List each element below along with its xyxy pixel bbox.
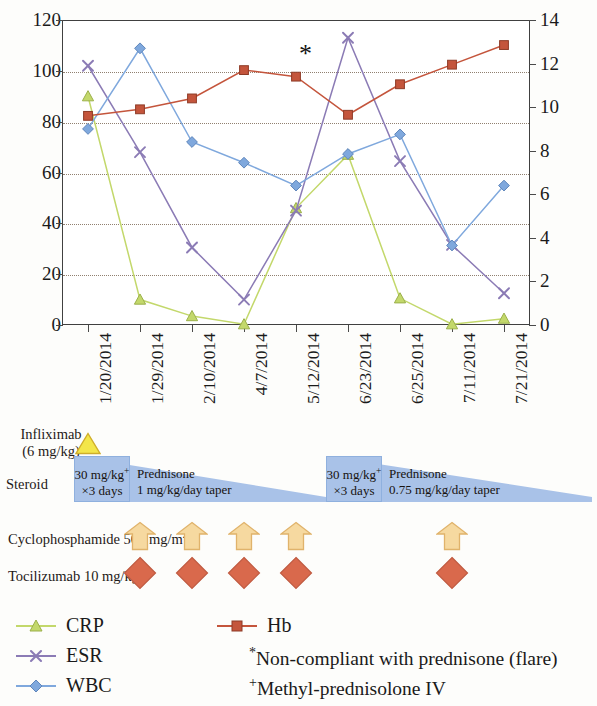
data-point-diamond (83, 124, 94, 135)
y-axis-right-tick-label: 4 (540, 228, 590, 247)
x-axis-tick-label: 6/23/2014 (355, 333, 376, 404)
data-point-square (240, 66, 249, 75)
cyclophosphamide-label-text: Cyclophosphamide 500 mg/m (8, 531, 183, 547)
arrow-up-icon (280, 521, 312, 551)
tocilizumab-dose-diamond-icon (123, 556, 157, 594)
data-point-square (448, 60, 457, 69)
data-point-x (239, 295, 249, 305)
cyclophosphamide-dose-arrow-up-icon (436, 521, 468, 555)
y-axis-right-tick-mark (529, 325, 536, 326)
arrow-up-icon (228, 521, 260, 551)
y-axis-right-tick-label: 6 (540, 184, 590, 203)
y-axis-right-tick-label: 10 (540, 97, 590, 116)
x-axis-tick-label: 1/29/2014 (147, 333, 168, 404)
footnote-text: Methyl-prednisolone IV (257, 678, 446, 699)
flare-asterisk-annotation: * (299, 41, 312, 67)
infliximab-label-line2: (6 mg/kg) (22, 443, 80, 459)
data-point-diamond (187, 137, 198, 148)
data-point-triangle (82, 91, 93, 101)
legend-item-esr[interactable]: ESR (14, 644, 103, 667)
cyclophosphamide-dose-arrow-up-icon (176, 521, 208, 555)
diamond-icon (227, 556, 261, 590)
y-axis-right-tick-label: 12 (540, 54, 590, 73)
footnote-mark: * (249, 645, 256, 660)
x-axis-tick-mark (296, 325, 297, 332)
steroid-bolus-duration: ×3 days (82, 483, 123, 498)
data-point-triangle (498, 313, 509, 323)
y-axis-right-tick-label: 8 (540, 141, 590, 160)
data-point-square (84, 111, 93, 120)
cyclophosphamide-dose-arrow-up-icon (124, 521, 156, 555)
x-axis-tick-mark (348, 325, 349, 332)
arrow-up-icon (124, 521, 156, 551)
legend-marker-square (215, 618, 259, 634)
x-axis-tick-mark (400, 325, 401, 332)
legend-marker-diamond (14, 678, 58, 694)
data-point-triangle (394, 293, 405, 303)
y-axis-left-tick-label: 80 (17, 112, 61, 131)
y-axis-right-tick-mark (529, 20, 536, 21)
steroid-bolus-duration: ×3 days (334, 483, 375, 498)
therapy-timeline: Infliximab (6 mg/kg) Steroid 30 mg/kg+×3… (0, 420, 597, 600)
legend-label: ESR (66, 644, 103, 667)
legend-item-hb[interactable]: Hb (215, 614, 291, 637)
footnote-mark: + (249, 675, 257, 690)
data-point-x (187, 242, 197, 252)
footnote-text: Non-compliant with prednisone (flare) (256, 648, 558, 669)
data-point-x (343, 33, 353, 43)
data-point-square (344, 110, 353, 119)
x-axis-tick-mark (192, 325, 193, 332)
data-point-square (292, 72, 301, 81)
steroid-bolus-superscript: + (124, 466, 129, 476)
diamond-icon (175, 556, 209, 590)
y-axis-left-tick-label: 120 (17, 10, 61, 29)
figure-root: 020406080100120024681012141/20/20141/29/… (0, 0, 597, 706)
legend-label: CRP (66, 614, 104, 637)
x-axis-tick-mark (504, 325, 505, 332)
infliximab-triangle-icon (75, 432, 101, 459)
cyclophosphamide-label: Cyclophosphamide 500 mg/m2 (8, 530, 188, 548)
y-axis-left-tick-label: 20 (17, 264, 61, 283)
y-axis-left-tick-label: 60 (17, 163, 61, 182)
legend-marker (14, 678, 58, 694)
x-axis-tick-label: 6/25/2014 (407, 333, 428, 404)
legend-marker (215, 618, 259, 634)
cyclophosphamide-dose-arrow-up-icon (228, 521, 260, 555)
series-layer (62, 20, 530, 325)
x-axis-tick-label: 7/11/2014 (459, 333, 480, 403)
legend-item-wbc[interactable]: WBC (14, 674, 112, 697)
arrow-up-icon (436, 521, 468, 551)
infliximab-label-line1: Infliximab (20, 426, 81, 442)
series-hb (84, 41, 509, 121)
x-axis-tick-label: 1/20/2014 (95, 333, 116, 404)
y-axis-right-tick-mark (529, 107, 536, 108)
x-axis-tick-mark (88, 325, 89, 332)
y-axis-right-tick-label: 2 (540, 271, 590, 290)
x-axis-tick-label: 2/10/2014 (199, 333, 220, 404)
x-axis-tick-label: 5/12/2014 (303, 333, 324, 404)
data-point-square (396, 80, 405, 89)
tocilizumab-label: Tocilizumab 10 mg/kg (8, 568, 139, 585)
data-point-square (136, 105, 145, 114)
legend-footnote: *Non-compliant with prednisone (flare) (249, 645, 558, 670)
legend-label: Hb (267, 614, 291, 637)
x-axis-tick-label: 4/7/2014 (251, 333, 272, 395)
steroid-label: Steroid (6, 476, 48, 493)
diamond-icon (279, 556, 313, 590)
y-axis-right-tick-mark (529, 281, 536, 282)
tocilizumab-dose-diamond-icon (175, 556, 209, 594)
steroid-taper-drug: Prednisone (389, 466, 447, 481)
data-point-diamond (395, 129, 406, 140)
y-axis-left-tick-label: 40 (17, 213, 61, 232)
data-point-square (188, 94, 197, 103)
data-point-triangle (134, 294, 145, 304)
lab-values-chart: 020406080100120024681012141/20/20141/29/… (0, 0, 597, 420)
y-axis-right-tick-mark (529, 194, 536, 195)
cyclophosphamide-dose-arrow-up-icon (280, 521, 312, 555)
y-axis-right-tick-mark (529, 151, 536, 152)
diamond-icon (123, 556, 157, 590)
y-axis-right-tick-mark (529, 238, 536, 239)
legend-marker (14, 618, 58, 634)
legend-item-crp[interactable]: CRP (14, 614, 104, 637)
steroid-course: 30 mg/kg+×3 daysPrednisone1 mg/kg/day ta… (74, 456, 326, 502)
